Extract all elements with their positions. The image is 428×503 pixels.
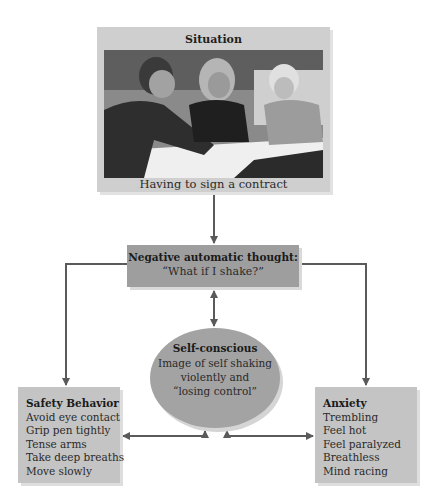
list-item: Feel hot [323,424,401,437]
arrow-thought-to-anxiety [299,264,366,385]
self-conscious-line: violently and [150,371,280,383]
self-conscious-line: “losing control” [150,385,280,397]
arrow-ellipse-safety [123,431,205,436]
list-item: Feel paralyzed [323,438,401,451]
safety-behavior-list: Avoid eye contact Grip pen tightly Tense… [26,411,124,478]
arrow-thought-to-safety [66,264,127,385]
anxiety-list: Trembling Feel hot Feel paralyzed Breath… [323,411,401,478]
self-conscious-ellipse: Self-conscious Image of self shaking vio… [150,328,280,428]
situation-caption: Having to sign a contract [97,177,330,191]
negative-thought-title: Negative automatic thought: [127,251,299,263]
list-item: Avoid eye contact [26,411,124,424]
list-item: Take deep breaths [26,451,124,464]
arrow-ellipse-anxiety [227,431,313,436]
list-item: Grip pen tightly [26,424,124,437]
list-item: Tense arms [26,438,124,451]
safety-behavior-title: Safety Behavior [26,397,119,409]
list-item: Trembling [323,411,401,424]
safety-behavior-box: Safety Behavior Avoid eye contact Grip p… [18,387,120,483]
list-item: Mind racing [323,465,401,478]
photo-illustration [104,50,323,178]
situation-photo [104,50,323,178]
negative-thought-quote: “What if I shake?” [127,265,299,278]
situation-title: Situation [97,33,330,46]
anxiety-box: Anxiety Trembling Feel hot Feel paralyze… [315,387,417,483]
list-item: Breathless [323,451,401,464]
list-item: Move slowly [26,465,124,478]
negative-thought-box: Negative automatic thought: “What if I s… [127,245,299,287]
self-conscious-line: Image of self shaking [150,357,280,369]
situation-box: Situation Having to sign a contract [97,27,330,192]
anxiety-title: Anxiety [323,397,367,409]
self-conscious-title: Self-conscious [150,342,280,354]
